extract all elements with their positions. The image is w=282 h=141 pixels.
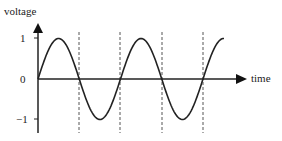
voltage-time-graph — [0, 0, 282, 141]
x-axis-label: time — [251, 73, 271, 84]
y-axis-arrow-icon — [33, 23, 43, 33]
y-tick-1: 1 — [20, 33, 26, 44]
y-tick-minus-1: −1 — [16, 114, 28, 125]
y-tick-0: 0 — [20, 74, 26, 85]
y-axis-label: voltage — [4, 6, 36, 17]
dashed-zero-crossing-lines — [79, 32, 203, 133]
x-axis-arrow-icon — [236, 74, 247, 84]
